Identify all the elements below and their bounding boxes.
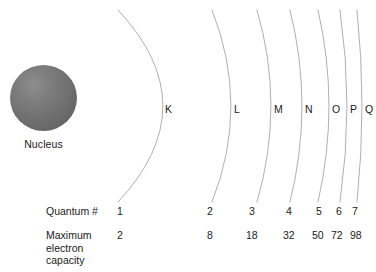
- electron-capacity-k: 2: [117, 229, 123, 241]
- shell-arc-n: [290, 10, 302, 202]
- quantum-number-k: 1: [117, 205, 123, 217]
- shell-label-q: Q: [365, 103, 373, 115]
- shell-arc-k: [118, 10, 163, 202]
- electron-shell-diagram: Nucleus KLMNOPQ Quantum # Maximum electr…: [0, 0, 376, 272]
- shell-label-p: P: [350, 103, 357, 115]
- shell-label-n: N: [305, 103, 313, 115]
- shell-arc-o: [318, 10, 329, 202]
- shell-arc-q: [357, 10, 362, 202]
- electron-capacity-p: 72: [331, 229, 343, 241]
- shell-label-m: M: [274, 103, 283, 115]
- shell-arc-p: [340, 10, 347, 202]
- quantum-number-p: 6: [336, 205, 342, 217]
- shell-arc-l: [212, 10, 231, 202]
- capacity-row-label-line3: capacity: [46, 254, 92, 267]
- quantum-number-m: 3: [249, 205, 255, 217]
- electron-capacity-q: 98: [350, 229, 362, 241]
- shell-arc-m: [257, 10, 271, 202]
- electron-capacity-n: 32: [283, 229, 295, 241]
- shell-label-l: L: [234, 103, 240, 115]
- quantum-number-n: 4: [286, 205, 292, 217]
- electron-capacity-o: 50: [312, 229, 324, 241]
- electron-capacity-m: 18: [246, 229, 258, 241]
- capacity-row-label-line2: electron: [46, 242, 92, 255]
- nucleus-label: Nucleus: [0, 138, 87, 151]
- quantum-number-l: 2: [207, 205, 213, 217]
- quantum-number-row-label: Quantum #: [46, 205, 98, 218]
- nucleus-sphere: [10, 65, 77, 131]
- capacity-row-label-line1: Maximum: [46, 229, 92, 242]
- quantum-number-q: 7: [352, 205, 358, 217]
- shell-label-o: O: [332, 103, 340, 115]
- electron-capacity-l: 8: [207, 229, 213, 241]
- shell-label-k: K: [165, 103, 172, 115]
- capacity-row-label: Maximum electron capacity: [46, 229, 92, 267]
- quantum-number-o: 5: [316, 205, 322, 217]
